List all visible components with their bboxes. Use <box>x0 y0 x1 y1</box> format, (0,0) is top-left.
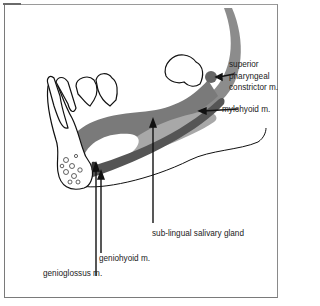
molar-tooth <box>165 55 202 86</box>
label-line-1: superior <box>229 59 278 71</box>
premolar-tooth <box>76 77 97 106</box>
label-genioglossus: genioglossus m. <box>43 268 102 279</box>
label-superior-pharyngeal-constrictor: superior pharyngeal constrictor m. <box>229 59 278 94</box>
label-line-2: pharyngeal <box>229 71 278 83</box>
premolar-tooth-2 <box>96 74 117 106</box>
label-mylohyoid: mylohyoid m. <box>222 104 270 115</box>
label-geniohyoid: geniohyoid m. <box>99 253 150 264</box>
label-sublingual-gland: sub-lingual salivary gland <box>152 228 244 239</box>
label-line-3: constrictor m. <box>229 82 278 94</box>
